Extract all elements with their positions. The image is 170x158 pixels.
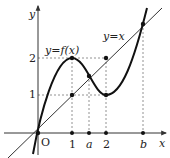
x-tick-a: a: [86, 138, 93, 151]
x-axis-label: x: [159, 137, 166, 150]
min-point: [104, 93, 108, 97]
y-tick-2: 2: [29, 52, 36, 65]
x-tick-1: 1: [69, 138, 76, 151]
x-tick-2: 2: [103, 138, 110, 151]
intersection-a-point: [87, 74, 91, 78]
tick-point-a: [87, 131, 91, 135]
origin-point: [36, 131, 40, 135]
y-axis-label: y: [28, 8, 36, 21]
function-graph: y x O 1 a 2 b 1 2 y=f(x) y=x: [0, 0, 170, 158]
tick-point-1: [70, 131, 74, 135]
intersection-b-point: [141, 22, 145, 26]
identity-line: [8, 8, 162, 158]
line-point-1: [70, 93, 74, 97]
f-curve-label: y=f(x): [44, 44, 79, 57]
tick-point-2: [104, 131, 108, 135]
tick-point-b: [141, 131, 145, 135]
identity-line-label: y=x: [102, 30, 125, 43]
x-tick-b: b: [140, 138, 147, 151]
origin-label: O: [41, 136, 50, 149]
y-tick-1: 1: [29, 88, 36, 101]
line-point-2: [104, 56, 108, 60]
